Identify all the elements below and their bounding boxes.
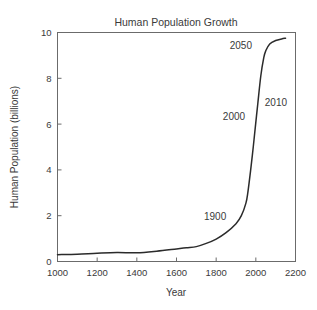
y-axis-title: Human Population (billions) (9, 86, 20, 208)
y-tick-label: 4 (46, 164, 51, 175)
curve-annotation-1900: 1900 (204, 211, 227, 222)
y-tick-label: 10 (41, 27, 52, 38)
curve-annotation-2010: 2010 (265, 97, 288, 108)
y-tick-label: 8 (46, 73, 51, 84)
x-tick-label: 1000 (47, 267, 68, 278)
y-tick-label: 0 (46, 256, 51, 267)
chart-title: Human Population Growth (114, 16, 237, 28)
x-tick-label: 1800 (206, 267, 227, 278)
curve-annotation-2000: 2000 (223, 111, 246, 122)
y-tick-label: 2 (46, 210, 51, 221)
x-tick-label: 1400 (126, 267, 147, 278)
x-tick-label: 1200 (87, 267, 108, 278)
y-tick-label: 6 (46, 119, 51, 130)
chart-container: Human Population Growth 0246810 10001200… (0, 0, 317, 310)
x-tick-label: 2200 (285, 267, 306, 278)
human-population-growth-chart: Human Population Growth 0246810 10001200… (0, 0, 317, 310)
x-tick-label: 1600 (166, 267, 187, 278)
x-tick-label: 2000 (245, 267, 266, 278)
x-axis-title: Year (166, 287, 187, 298)
curve-annotation-2050: 2050 (230, 40, 253, 51)
